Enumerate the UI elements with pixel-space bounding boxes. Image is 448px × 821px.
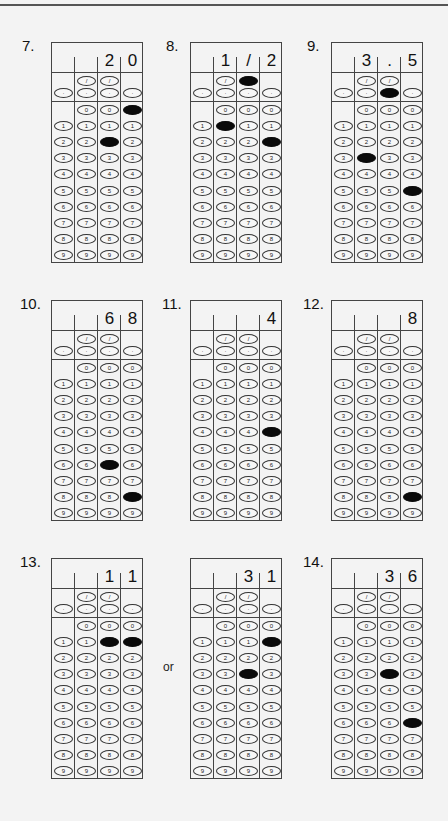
digit-bubble-5[interactable]: 5 (193, 444, 212, 454)
digit-bubble-5[interactable]: 5 (403, 702, 422, 712)
digit-bubble-9[interactable]: 9 (334, 250, 353, 260)
digit-bubble-3[interactable]: 3 (334, 153, 353, 163)
digit-bubble-8[interactable]: 8 (193, 492, 212, 502)
digit-bubble-0[interactable]: 0 (262, 105, 281, 115)
digit-bubble-5[interactable]: 5 (239, 444, 258, 454)
decimal-point-bubble[interactable]: · (193, 346, 212, 356)
digit-bubble-6[interactable]: 6 (193, 718, 212, 728)
digit-bubble-2[interactable]: 2 (357, 395, 376, 405)
digit-bubble-0[interactable]: 0 (357, 363, 376, 373)
digit-bubble-0[interactable]: 0 (357, 621, 376, 631)
digit-bubble-6[interactable]: 6 (357, 460, 376, 470)
digit-bubble-1[interactable]: 1 (334, 379, 353, 389)
digit-bubble-1[interactable]: 1 (380, 637, 399, 647)
decimal-point-bubble[interactable]: · (216, 604, 235, 614)
digit-bubble-4[interactable]: 4 (54, 169, 73, 179)
digit-bubble-4[interactable]: 4 (123, 685, 142, 695)
digit-bubble-6[interactable]: 6 (100, 202, 119, 212)
digit-bubble-6[interactable]: 6 (334, 718, 353, 728)
digit-bubble-0[interactable]: 0 (123, 105, 142, 115)
digit-bubble-6[interactable]: 6 (100, 460, 119, 470)
decimal-point-bubble[interactable]: · (262, 88, 281, 98)
decimal-point-bubble[interactable]: · (334, 346, 353, 356)
digit-bubble-6[interactable]: 6 (403, 460, 422, 470)
digit-bubble-6[interactable]: 6 (77, 460, 96, 470)
digit-bubble-2[interactable]: 2 (357, 137, 376, 147)
digit-bubble-5[interactable]: 5 (380, 702, 399, 712)
digit-bubble-4[interactable]: 4 (216, 169, 235, 179)
digit-bubble-0[interactable]: 0 (262, 363, 281, 373)
digit-bubble-4[interactable]: 4 (380, 685, 399, 695)
digit-bubble-7[interactable]: 7 (77, 218, 96, 228)
digit-bubble-7[interactable]: 7 (262, 476, 281, 486)
digit-bubble-1[interactable]: 1 (216, 121, 235, 131)
digit-bubble-6[interactable]: 6 (123, 202, 142, 212)
digit-bubble-8[interactable]: 8 (193, 234, 212, 244)
digit-bubble-9[interactable]: 9 (334, 508, 353, 518)
digit-bubble-9[interactable]: 9 (100, 250, 119, 260)
digit-bubble-7[interactable]: 7 (403, 734, 422, 744)
digit-bubble-3[interactable]: 3 (262, 153, 281, 163)
fraction-bar-bubble[interactable]: / (239, 76, 258, 86)
digit-bubble-8[interactable]: 8 (357, 492, 376, 502)
digit-bubble-9[interactable]: 9 (380, 766, 399, 776)
digit-bubble-8[interactable]: 8 (216, 750, 235, 760)
digit-bubble-5[interactable]: 5 (100, 444, 119, 454)
fraction-bar-bubble[interactable]: / (357, 592, 376, 602)
fraction-bar-bubble[interactable]: / (100, 334, 119, 344)
decimal-point-bubble[interactable]: · (403, 88, 422, 98)
digit-bubble-8[interactable]: 8 (403, 492, 422, 502)
fraction-bar-bubble[interactable]: / (77, 334, 96, 344)
digit-bubble-9[interactable]: 9 (216, 508, 235, 518)
digit-bubble-9[interactable]: 9 (239, 250, 258, 260)
digit-bubble-4[interactable]: 4 (100, 169, 119, 179)
digit-bubble-0[interactable]: 0 (239, 105, 258, 115)
digit-bubble-5[interactable]: 5 (216, 702, 235, 712)
digit-bubble-1[interactable]: 1 (77, 379, 96, 389)
decimal-point-bubble[interactable]: · (357, 88, 376, 98)
digit-bubble-1[interactable]: 1 (357, 379, 376, 389)
decimal-point-bubble[interactable]: · (100, 346, 119, 356)
digit-bubble-2[interactable]: 2 (357, 653, 376, 663)
digit-bubble-0[interactable]: 0 (100, 363, 119, 373)
digit-bubble-2[interactable]: 2 (262, 137, 281, 147)
digit-bubble-0[interactable]: 0 (403, 105, 422, 115)
digit-bubble-5[interactable]: 5 (193, 702, 212, 712)
digit-bubble-3[interactable]: 3 (380, 411, 399, 421)
digit-bubble-2[interactable]: 2 (100, 653, 119, 663)
digit-bubble-1[interactable]: 1 (262, 121, 281, 131)
digit-bubble-0[interactable]: 0 (100, 621, 119, 631)
digit-bubble-0[interactable]: 0 (77, 621, 96, 631)
digit-bubble-9[interactable]: 9 (54, 250, 73, 260)
digit-bubble-3[interactable]: 3 (100, 153, 119, 163)
digit-bubble-7[interactable]: 7 (193, 476, 212, 486)
digit-bubble-5[interactable]: 5 (100, 186, 119, 196)
digit-bubble-3[interactable]: 3 (54, 669, 73, 679)
digit-bubble-8[interactable]: 8 (54, 234, 73, 244)
digit-bubble-1[interactable]: 1 (262, 637, 281, 647)
decimal-point-bubble[interactable]: · (334, 88, 353, 98)
fraction-bar-bubble[interactable]: / (239, 592, 258, 602)
digit-bubble-7[interactable]: 7 (100, 734, 119, 744)
digit-bubble-3[interactable]: 3 (357, 669, 376, 679)
digit-bubble-1[interactable]: 1 (216, 637, 235, 647)
digit-bubble-5[interactable]: 5 (77, 444, 96, 454)
fraction-bar-bubble[interactable]: / (100, 76, 119, 86)
digit-bubble-5[interactable]: 5 (380, 444, 399, 454)
digit-bubble-8[interactable]: 8 (216, 492, 235, 502)
digit-bubble-2[interactable]: 2 (54, 653, 73, 663)
digit-bubble-6[interactable]: 6 (380, 460, 399, 470)
digit-bubble-5[interactable]: 5 (334, 444, 353, 454)
digit-bubble-0[interactable]: 0 (380, 621, 399, 631)
digit-bubble-6[interactable]: 6 (54, 718, 73, 728)
digit-bubble-1[interactable]: 1 (100, 379, 119, 389)
decimal-point-bubble[interactable]: · (380, 346, 399, 356)
digit-bubble-7[interactable]: 7 (239, 476, 258, 486)
digit-bubble-2[interactable]: 2 (77, 653, 96, 663)
digit-bubble-0[interactable]: 0 (403, 621, 422, 631)
fraction-bar-bubble[interactable]: / (216, 592, 235, 602)
digit-bubble-5[interactable]: 5 (334, 702, 353, 712)
digit-bubble-4[interactable]: 4 (334, 685, 353, 695)
digit-bubble-8[interactable]: 8 (123, 750, 142, 760)
digit-bubble-1[interactable]: 1 (77, 121, 96, 131)
